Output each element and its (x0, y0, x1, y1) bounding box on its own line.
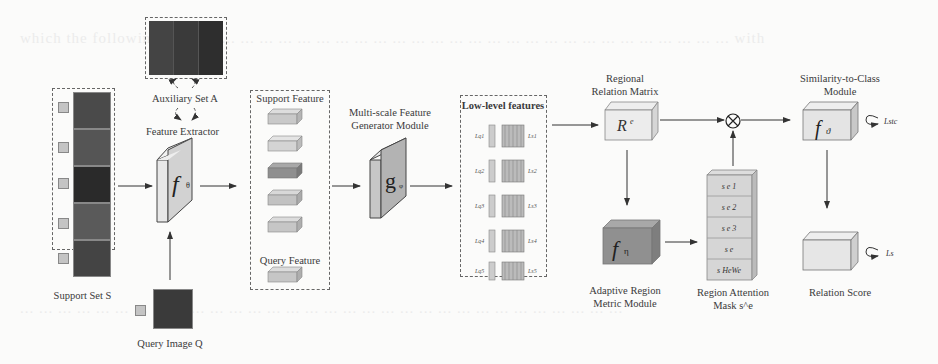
svg-text:Lstc: Lstc (883, 117, 898, 126)
svg-text:s e 1: s e 1 (722, 182, 737, 191)
support-feature-cubes (268, 109, 302, 232)
svg-text:g: g (385, 168, 396, 193)
svg-text:Ls3: Ls3 (527, 203, 537, 209)
svg-text:s e 3: s e 3 (722, 224, 737, 233)
svg-text:Lq2: Lq2 (474, 168, 484, 174)
generator-block: g φ (370, 138, 406, 218)
low-level-stacks: Lq1Ls1 Lq2Ls2 Lq3Ls3 Lq4Ls4 Lq5Ls5 (474, 125, 537, 280)
svg-text:s e 2: s e 2 (722, 203, 737, 212)
svg-text:Lq1: Lq1 (474, 133, 484, 139)
relation-matrix-cube: R e (605, 102, 658, 140)
svg-text:Ls2: Ls2 (527, 168, 537, 174)
svg-text:Ls1: Ls1 (527, 133, 537, 139)
feature-extractor-block: f θ (157, 138, 192, 222)
query-feature-cube (268, 267, 302, 282)
svg-text:ϑ: ϑ (826, 126, 831, 136)
svg-text:φ: φ (399, 182, 403, 190)
svg-text:Ls: Ls (885, 249, 894, 258)
svg-text:s e: s e (725, 245, 734, 254)
diagram-canvas: f θ g φ (0, 0, 938, 364)
similarity-cube: f ϑ (803, 102, 858, 140)
svg-text:η: η (624, 246, 629, 256)
multiply-symbol (726, 114, 740, 128)
svg-text:Ls4: Ls4 (527, 238, 537, 244)
adaptive-region-cube: f η (603, 220, 660, 264)
relation-score-cube (803, 232, 858, 270)
attention-mask-stack: s e 1 s e 2 s e 3 s e s HeWe (707, 170, 757, 280)
svg-text:e: e (630, 117, 634, 126)
svg-text:Lq3: Lq3 (474, 203, 484, 209)
svg-text:Lq4: Lq4 (474, 238, 484, 244)
svg-text:Lq5: Lq5 (474, 268, 484, 274)
svg-text:R: R (616, 117, 627, 134)
svg-text:θ: θ (186, 181, 190, 190)
svg-text:Ls5: Ls5 (527, 268, 537, 274)
svg-text:s HeWe: s HeWe (717, 266, 741, 275)
